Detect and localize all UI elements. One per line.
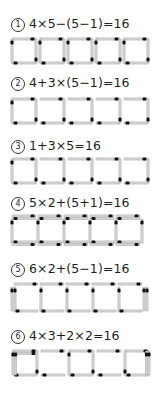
- matchstick-figures: [0, 0, 166, 394]
- figure-3: [11, 158, 150, 185]
- figure-1: [11, 38, 150, 65]
- figure-5: [11, 283, 149, 313]
- figure-2: [11, 98, 150, 125]
- figure-4: [11, 215, 144, 246]
- figure-6: [12, 350, 151, 377]
